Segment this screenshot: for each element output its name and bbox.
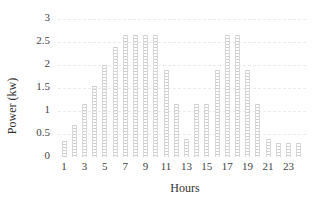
- bar-hour-15: [204, 104, 209, 157]
- x-tick-label: 19: [238, 160, 258, 172]
- y-tick-label: 2: [26, 57, 50, 69]
- bar-hour-23: [286, 143, 291, 157]
- x-tick-label: 13: [176, 160, 196, 172]
- y-tick-label: 2.5: [26, 34, 50, 46]
- bar-hour-5: [102, 65, 107, 157]
- bar-hour-3: [82, 104, 87, 157]
- bar-hour-16: [215, 70, 220, 157]
- bar-hour-10: [153, 35, 158, 157]
- x-tick-label: 11: [156, 160, 176, 172]
- power-bar-chart: Power (kw) 00.511.522.53 135791113151719…: [0, 0, 318, 201]
- x-tick-label: 23: [278, 160, 298, 172]
- gridline: [58, 42, 306, 43]
- gridline: [58, 65, 306, 66]
- y-axis-title: Power (kw): [2, 86, 22, 126]
- bar-hour-17: [225, 35, 230, 157]
- x-tick-label: 17: [217, 160, 237, 172]
- bar-hour-18: [235, 35, 240, 157]
- x-tick-label: 3: [74, 160, 94, 172]
- bar-hour-20: [255, 104, 260, 157]
- bar-hour-8: [133, 35, 138, 157]
- y-tick-label: 0: [26, 149, 50, 161]
- x-tick-label: 15: [197, 160, 217, 172]
- x-tick-label: 21: [258, 160, 278, 172]
- bar-hour-14: [194, 104, 199, 157]
- y-tick-label: 1: [26, 103, 50, 115]
- x-tick-label: 1: [54, 160, 74, 172]
- bar-hour-11: [164, 70, 169, 157]
- bar-hour-2: [72, 125, 77, 157]
- bar-hour-13: [184, 139, 189, 157]
- bar-hour-4: [92, 86, 97, 157]
- bar-hour-6: [113, 47, 118, 157]
- x-tick-label: 7: [115, 160, 135, 172]
- x-tick-label: 9: [136, 160, 156, 172]
- bar-hour-7: [123, 35, 128, 157]
- y-tick-label: 1.5: [26, 80, 50, 92]
- x-tick-label: 5: [95, 160, 115, 172]
- bar-hour-9: [143, 35, 148, 157]
- gridline: [58, 19, 306, 20]
- y-tick-label: 3: [26, 11, 50, 23]
- y-axis-title-text: Power (kw): [5, 78, 20, 134]
- bar-hour-19: [245, 70, 250, 157]
- bar-hour-21: [266, 139, 271, 157]
- y-tick-label: 0.5: [26, 126, 50, 138]
- bar-hour-1: [62, 141, 67, 157]
- x-axis-title: Hours: [160, 181, 210, 196]
- bar-hour-24: [296, 143, 301, 157]
- bar-hour-12: [174, 104, 179, 157]
- bar-hour-22: [276, 143, 281, 157]
